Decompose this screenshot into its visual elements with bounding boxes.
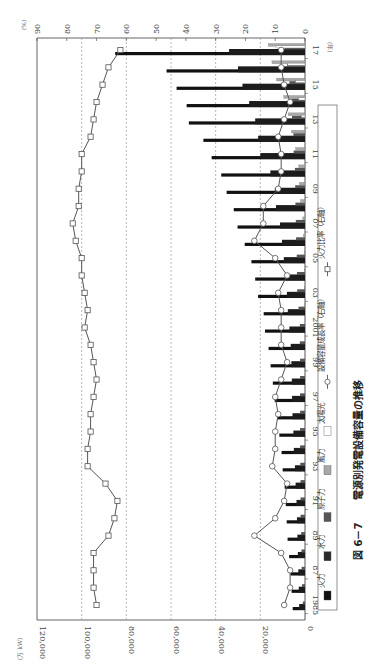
bar-nuclear	[296, 237, 305, 240]
bar-nuclear	[295, 168, 305, 171]
growth-rate-marker	[275, 186, 281, 192]
plot-area	[37, 38, 305, 620]
thermal-share-marker	[106, 65, 111, 70]
bar-hydro	[242, 84, 305, 90]
growth-rate-marker	[275, 134, 281, 140]
percent-tick-label: 70	[93, 24, 102, 34]
capacity-tick-label: 60,000	[172, 626, 181, 654]
growth-rate-marker	[261, 221, 267, 227]
growth-rate-marker	[281, 117, 287, 123]
bar-nuclear	[300, 376, 305, 379]
capacity-tick-label: 80,000	[127, 626, 136, 654]
capacity-unit-label: (万 kW)	[16, 638, 24, 660]
bar-nuclear	[302, 567, 305, 570]
growth-rate-marker	[287, 99, 293, 105]
thermal-share-marker	[115, 498, 120, 503]
percent-tick-label: 60	[122, 24, 131, 34]
thermal-share-marker	[70, 221, 75, 226]
thermal-share-marker	[85, 446, 90, 451]
thermal-share-marker	[103, 481, 108, 486]
thermal-share-marker	[82, 325, 87, 330]
thermal-share-marker	[88, 134, 93, 139]
thermal-share-marker	[91, 585, 96, 590]
bar-hydro	[289, 327, 305, 333]
thermal-share-marker	[91, 550, 96, 555]
thermal-share-marker	[88, 412, 93, 417]
capacity-tick-label: 40,000	[217, 626, 226, 654]
bar-hydro	[293, 431, 305, 437]
bar-hydro	[297, 500, 305, 506]
thermal-share-marker	[85, 308, 90, 313]
bar-hydro	[288, 309, 305, 315]
growth-rate-marker	[269, 463, 275, 469]
bar-hydro	[292, 379, 305, 385]
growth-rate-marker	[284, 273, 290, 279]
bar-nuclear	[300, 341, 305, 344]
bar-hydro	[291, 361, 305, 367]
capacity-tick-label: 20,000	[261, 626, 270, 654]
caption-title: 電源別発電設備容量の推移	[352, 380, 364, 500]
circle-marker-icon	[325, 379, 330, 384]
bar-hydro	[297, 535, 305, 541]
legend: 火力水力原子力風力太陽光設備容量成長率（右軸）火力比率（右軸）	[316, 105, 337, 610]
growth-rate-marker	[272, 394, 278, 400]
bar-hydro	[229, 49, 305, 55]
growth-rate-marker	[272, 429, 278, 435]
thermal-share-marker	[76, 186, 81, 191]
legend-label: 太陽光	[316, 402, 326, 424]
bar-wind	[304, 252, 305, 255]
capacity-axis: 020,00040,00060,00080,000100,000120,000	[38, 626, 315, 659]
percent-tick-label: 30	[212, 24, 221, 34]
bar-hydro	[299, 604, 305, 610]
percent-tick-label: 0	[301, 29, 310, 34]
bar-hydro	[255, 118, 305, 124]
percent-tick-label: 40	[182, 24, 191, 34]
bar-nuclear	[301, 480, 305, 483]
bar-nuclear	[301, 532, 305, 535]
bar-solar	[296, 80, 305, 82]
thermal-share-marker	[91, 117, 96, 122]
solar-swatch-icon	[324, 427, 331, 436]
bar-nuclear	[297, 255, 305, 258]
thermal-share-marker	[94, 377, 99, 382]
year-tick-label: 17	[311, 45, 320, 55]
growth-rate-marker	[278, 47, 284, 53]
growth-rate-marker	[278, 550, 284, 556]
percent-tick-label: 10	[271, 24, 280, 34]
capacity-tick-label: 0	[306, 626, 315, 631]
percent-tick-label: 50	[152, 24, 161, 34]
bar-hydro	[282, 240, 305, 246]
bar-nuclear	[299, 307, 305, 310]
bar-solar	[299, 98, 305, 100]
percent-tick-label: 80	[63, 24, 72, 34]
legend-label: 火力	[316, 574, 326, 588]
bar-nuclear	[295, 203, 305, 206]
bar-hydro	[291, 344, 305, 350]
bar-hydro	[249, 101, 305, 107]
bar-hydro	[299, 587, 305, 593]
thermal-share-marker	[79, 151, 84, 156]
legend-label: 設備容量成長率（右軸）	[316, 295, 326, 372]
bar-hydro	[238, 66, 305, 72]
bar-nuclear	[300, 359, 305, 362]
growth-rate-marker	[281, 602, 287, 608]
bar-wind	[296, 148, 305, 151]
bar-nuclear	[301, 497, 305, 500]
growth-rate-marker	[275, 411, 281, 417]
growth-rate-marker	[252, 533, 258, 539]
bar-wind	[299, 165, 305, 168]
thermal-share-marker	[79, 273, 84, 278]
growth-rate-marker	[272, 446, 278, 452]
bar-nuclear	[301, 515, 305, 518]
bar-hydro	[287, 292, 305, 298]
caption-number: 図 6－7	[353, 523, 364, 560]
thermal-share-line	[73, 50, 121, 605]
bar-solar	[288, 63, 305, 65]
growth-rate-marker	[261, 203, 267, 209]
bar-nuclear	[300, 393, 305, 396]
bar-nuclear	[295, 185, 305, 188]
bar-nuclear	[294, 151, 305, 154]
bar-nuclear	[300, 445, 305, 448]
percent-tick-label: 20	[241, 24, 250, 34]
thermal-share-marker	[106, 533, 111, 538]
